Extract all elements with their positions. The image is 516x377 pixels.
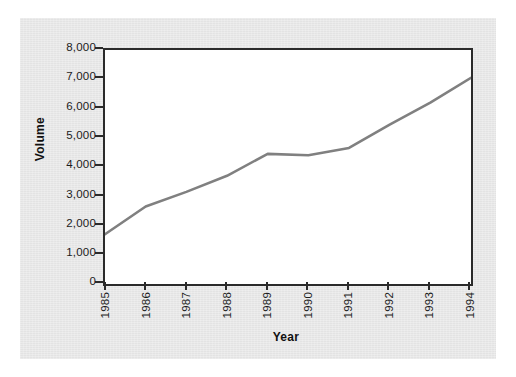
y-tick-label: 8,000 [40, 42, 96, 54]
x-tick-label-1986: 1986 [140, 292, 152, 318]
y-tickmark [95, 76, 103, 78]
y-tickmark [95, 106, 103, 108]
x-tick-label-1989: 1989 [261, 292, 273, 318]
x-tickmark [144, 282, 146, 290]
x-tickmark [306, 282, 308, 290]
y-tickmark [95, 135, 103, 137]
y-tickmark [95, 252, 103, 254]
x-tickmark [347, 282, 349, 290]
x-tick-label-1991: 1991 [342, 292, 354, 318]
x-tick-label-1992: 1992 [383, 292, 395, 318]
plot-area [103, 48, 473, 286]
x-tickmark [185, 282, 187, 290]
x-tickmark [266, 282, 268, 290]
x-tick-label-1994: 1994 [464, 292, 476, 318]
y-tickmark [95, 281, 103, 283]
y-tickmark [95, 194, 103, 196]
y-tick-label: 2,000 [40, 218, 96, 230]
y-tickmark [95, 47, 103, 49]
y-tick-label: 0 [40, 276, 96, 288]
x-tick-label-1993: 1993 [423, 292, 435, 318]
y-tick-label: 3,000 [40, 189, 96, 201]
x-tick-label-1988: 1988 [221, 292, 233, 318]
volume-line-series [105, 78, 471, 234]
y-tick-label: 5,000 [40, 130, 96, 142]
x-tickmark [225, 282, 227, 290]
x-tickmark [387, 282, 389, 290]
x-tickmark [428, 282, 430, 290]
x-tick-label-1985: 1985 [99, 292, 111, 318]
y-tickmark [95, 164, 103, 166]
y-axis-tick-labels: 8,000 7,000 6,000 5,000 4,000 3,000 2,00… [36, 0, 96, 377]
x-tickmark [104, 282, 106, 290]
y-tick-label: 6,000 [40, 101, 96, 113]
data-line-svg [105, 50, 471, 284]
x-axis-title: Year [103, 330, 469, 344]
y-tick-label: 4,000 [40, 159, 96, 171]
y-tick-label: 7,000 [40, 71, 96, 83]
y-tickmark [95, 223, 103, 225]
x-tick-label-1990: 1990 [302, 292, 314, 318]
x-tick-label-1987: 1987 [180, 292, 192, 318]
y-tick-label: 1,000 [40, 247, 96, 259]
x-tickmark [468, 282, 470, 290]
chart-figure: 8,000 7,000 6,000 5,000 4,000 3,000 2,00… [0, 0, 516, 377]
y-axis-title: Volume [33, 117, 47, 161]
